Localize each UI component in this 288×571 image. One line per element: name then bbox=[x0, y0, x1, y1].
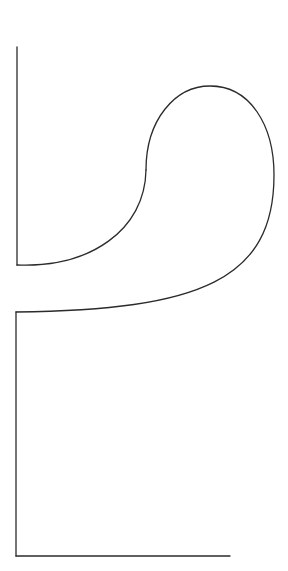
outline-drawing bbox=[0, 0, 288, 571]
lower-s-curve bbox=[17, 170, 146, 265]
upper-loop-curve bbox=[16, 86, 274, 312]
